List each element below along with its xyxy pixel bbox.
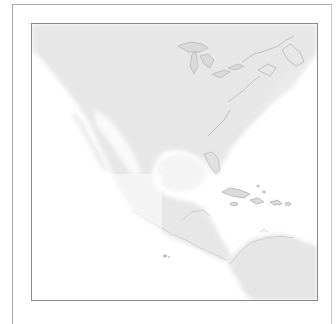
map-frame <box>31 23 318 301</box>
gulf-of-mexico <box>156 154 208 192</box>
south-america-landmass <box>228 234 317 300</box>
galapagos-islands <box>163 255 170 258</box>
atlantic-fade <box>202 64 317 214</box>
map-canvas <box>32 24 317 300</box>
pacific-fade <box>32 174 162 300</box>
